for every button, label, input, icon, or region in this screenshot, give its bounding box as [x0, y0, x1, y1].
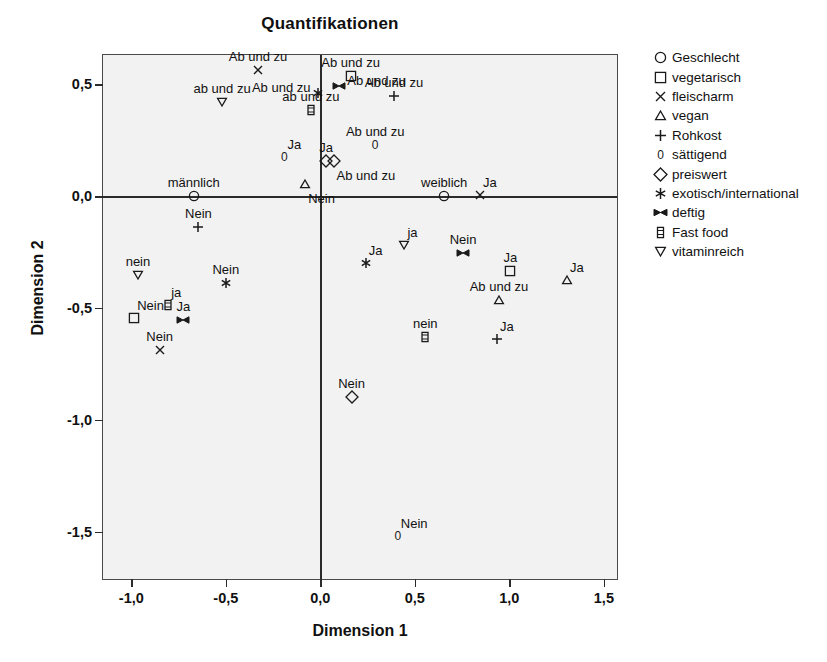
data-point-label: Ja [503, 251, 517, 264]
data-point-label: Ja [570, 261, 584, 274]
legend-item-label: deftig [672, 205, 705, 220]
legend-item: vitaminreich [652, 242, 827, 261]
y-tick-mark [95, 308, 103, 310]
legend-item: 0sättigend [652, 145, 827, 164]
data-point-label: ab und zu [282, 90, 339, 103]
x-tick-label: -0,5 [213, 590, 238, 606]
legend-item-label: Fast food [672, 225, 728, 240]
cross-x-marker-icon [473, 188, 487, 202]
triangle-down-marker-icon [652, 243, 669, 260]
data-point-label: ab und zu [194, 82, 251, 95]
legend-item: vegan [652, 106, 827, 125]
cross-x-marker-icon [153, 343, 167, 357]
triangle-down-marker-icon [215, 95, 229, 109]
square-marker-icon [344, 69, 358, 83]
data-point-label: Ab und zu [337, 169, 396, 182]
asterisk-marker-icon [652, 185, 669, 202]
legend-item-label: Rohkost [672, 128, 722, 143]
cross-x-marker-icon [652, 88, 669, 105]
data-point-label: nein [126, 255, 151, 268]
data-point-label: Ab und zu [346, 125, 405, 138]
plus-marker-icon [387, 89, 401, 103]
data-point-label: Ja [176, 300, 190, 313]
circle-marker-icon [437, 189, 451, 203]
quantifikationen-figure: Quantifikationen 0,50,0-0,5-1,0-1,5 -1,0… [0, 0, 827, 662]
triangle-up-marker-icon [652, 107, 669, 124]
x-tick-label: 1,0 [499, 590, 519, 606]
data-point-label: Nein [212, 263, 239, 276]
data-point-label: Ab und zu [229, 50, 288, 63]
data-point-label: Nein [450, 233, 477, 246]
x-tick-mark [226, 579, 228, 587]
legend-item-label: fleischarm [672, 89, 734, 104]
fastfood-marker-icon [418, 330, 432, 344]
triangle-up-marker-icon [298, 177, 312, 191]
legend-item-label: vegetarisch [672, 70, 741, 85]
legend: GeschlechtvegetarischfleischarmveganRohk… [652, 48, 827, 261]
fastfood-marker-icon [304, 103, 318, 117]
diamond-marker-icon [327, 154, 341, 168]
plus-marker-icon [652, 127, 669, 144]
data-point-label: ja [171, 286, 181, 299]
y-tick-label: -0,5 [67, 300, 92, 316]
legend-item-label: preiswert [672, 167, 727, 182]
x-tick-label: 0,0 [310, 590, 330, 606]
diamond-marker-icon [652, 166, 669, 183]
x-tick-mark [131, 579, 133, 587]
cross-x-marker-icon [251, 63, 265, 77]
data-point-label: männlich [168, 176, 220, 189]
bowtie-marker-icon [652, 204, 669, 221]
bowtie-marker-icon [176, 313, 190, 327]
y-tick-label: 0,0 [72, 188, 92, 204]
y-tick-label: -1,0 [67, 412, 92, 428]
y-tick-mark [95, 196, 103, 198]
x-axis-title: Dimension 1 [102, 622, 618, 640]
legend-item-label: vitaminreich [672, 244, 744, 259]
legend-item: exotisch/international [652, 184, 827, 203]
chart-title: Quantifikationen [0, 14, 660, 34]
x-tick-mark [415, 579, 417, 587]
x-tick-mark [320, 579, 322, 587]
data-point-label: Nein [185, 207, 212, 220]
legend-item: fleischarm [652, 87, 827, 106]
data-point-label: ja [407, 226, 417, 239]
triangle-up-marker-icon [560, 273, 574, 287]
square-marker-icon [652, 69, 669, 86]
y-zero-axis-line [320, 55, 322, 579]
plus-marker-icon [490, 332, 504, 346]
bowtie-marker-icon [456, 246, 470, 260]
asterisk-marker-icon [219, 276, 233, 290]
x-tick-label: 1,5 [594, 590, 614, 606]
data-point-label: Nein [401, 517, 428, 530]
data-point-label: Ja [287, 138, 301, 151]
data-point-label: weiblich [421, 176, 467, 189]
digit-zero-marker-icon: 0 [652, 146, 669, 163]
y-tick-mark [95, 532, 103, 534]
legend-item: Rohkost [652, 126, 827, 145]
square-marker-icon [503, 264, 517, 278]
digit-zero-marker-icon: 0 [368, 138, 382, 152]
legend-item: deftig [652, 203, 827, 222]
data-point-label: Ab und zu [470, 280, 529, 293]
circle-marker-icon [652, 49, 669, 66]
digit-zero-marker-icon: 0 [277, 150, 291, 164]
legend-item-label: vegan [672, 108, 709, 123]
plot-inner: 0,50,0-0,5-1,0-1,5 -1,0-0,50,00,51,01,5 … [103, 55, 617, 579]
x-tick-mark [604, 579, 606, 587]
y-tick-mark [95, 420, 103, 422]
asterisk-marker-icon [359, 256, 373, 270]
data-point-label: Ab und zu [321, 56, 380, 69]
legend-item-label: exotisch/international [672, 186, 799, 201]
legend-item-label: sättigend [672, 147, 727, 162]
data-point-label: Ja [369, 244, 383, 257]
x-tick-label: 0,5 [405, 590, 425, 606]
fastfood-marker-icon [652, 224, 669, 241]
square-marker-icon [127, 311, 141, 325]
y-tick-mark [95, 84, 103, 86]
data-point-label: Nein [137, 299, 164, 312]
y-tick-label: -1,5 [67, 524, 92, 540]
triangle-up-marker-icon [492, 293, 506, 307]
data-point-label: Ja [500, 320, 514, 333]
diamond-marker-icon [345, 390, 359, 404]
y-tick-label: 0,5 [72, 76, 92, 92]
